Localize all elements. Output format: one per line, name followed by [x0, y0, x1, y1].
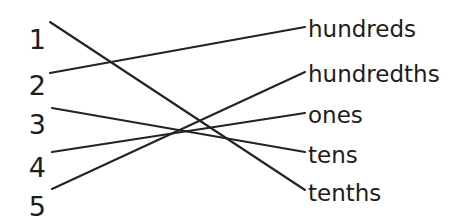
number-item-1[interactable]: 1 — [0, 26, 46, 53]
number-item-3[interactable]: 3 — [0, 111, 46, 138]
place-value-item-tens[interactable]: tens — [308, 144, 358, 167]
place-value-item-hundreds[interactable]: hundreds — [308, 18, 416, 41]
number-item-5[interactable]: 5 — [0, 193, 46, 217]
number-item-2[interactable]: 2 — [0, 72, 46, 99]
place-value-item-hundredths[interactable]: hundredths — [308, 63, 440, 86]
connection-line-2-hundreds[interactable] — [50, 27, 305, 73]
matching-worksheet: 1 2 3 4 5 hundreds hundredths ones tens … — [0, 0, 467, 217]
place-value-item-ones[interactable]: ones — [308, 104, 363, 127]
connection-line-5-hundredths[interactable] — [52, 72, 305, 189]
number-item-4[interactable]: 4 — [0, 154, 46, 181]
number-column: 1 2 3 4 5 — [0, 0, 46, 217]
place-value-word-column: hundreds hundredths ones tens tenths — [308, 0, 467, 217]
place-value-item-tenths[interactable]: tenths — [308, 182, 381, 205]
connection-line-1-tenths[interactable] — [50, 22, 305, 190]
